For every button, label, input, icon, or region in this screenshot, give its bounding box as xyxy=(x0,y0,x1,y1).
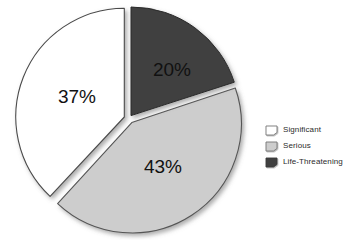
legend-item-significant[interactable]: Significant xyxy=(265,122,356,138)
pie-wedge-swatch-icon xyxy=(265,125,278,136)
pie-wedge-swatch-icon xyxy=(265,141,278,152)
legend-label-life-threatening: Life-Threatening xyxy=(283,157,343,167)
legend-label-significant: Significant xyxy=(283,125,321,135)
legend-item-serious[interactable]: Serious xyxy=(265,138,356,154)
slice-label-serious: 43% xyxy=(144,156,182,177)
slice-label-life-threatening: 20% xyxy=(153,59,191,80)
pie-chart-canvas: 20% 43% 37% xyxy=(0,0,356,240)
pie-wedge-swatch-icon xyxy=(265,157,278,168)
pie-chart-figure: 20% 43% 37% Significant Serious xyxy=(0,0,356,240)
legend-item-life-threatening[interactable]: Life-Threatening xyxy=(265,154,356,170)
chart-legend: Significant Serious Life-Threatening xyxy=(265,122,356,170)
legend-label-serious: Serious xyxy=(283,141,311,151)
slice-label-significant: 37% xyxy=(58,86,96,107)
